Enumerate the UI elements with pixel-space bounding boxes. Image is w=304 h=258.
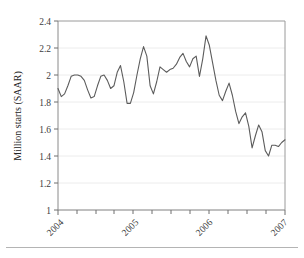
- y-tick-label: 1: [46, 206, 51, 216]
- y-tick-label: 2: [46, 71, 51, 81]
- y-tick-label: 2.4: [39, 17, 51, 27]
- y-tick-label: 1.2: [39, 179, 51, 189]
- figure-container: 2.4 2.2 2 1.8 1.6 1.4 1.2 1 Million star…: [0, 0, 304, 258]
- y-tick-label: 2.2: [39, 44, 51, 54]
- y-tick-label: 1.4: [39, 152, 51, 162]
- y-tick-label: 1.6: [39, 125, 51, 135]
- footer-divider: [6, 247, 298, 248]
- housing-starts-line-chart: 2.4 2.2 2 1.8 1.6 1.4 1.2 1 Million star…: [0, 0, 304, 258]
- y-tick-label: 1.8: [39, 98, 51, 108]
- y-axis-title: Million starts (SAAR): [12, 71, 24, 160]
